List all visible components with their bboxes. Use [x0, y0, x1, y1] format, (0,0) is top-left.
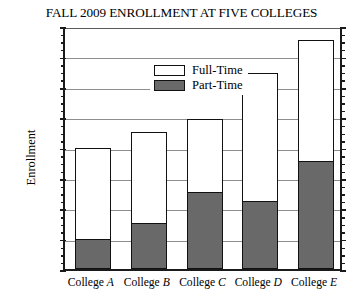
- right-minor-tick-mark: [340, 80, 345, 81]
- right-minor-tick-mark: [340, 50, 345, 51]
- legend-label-full-time: Full-Time: [192, 64, 243, 77]
- right-tick-mark: [340, 240, 346, 242]
- right-tick-mark: [340, 88, 346, 90]
- bar-segment-part-time[interactable]: [75, 239, 111, 269]
- right-minor-tick-mark: [340, 217, 345, 218]
- right-minor-tick-mark: [340, 65, 345, 66]
- y-tick-mark: [60, 270, 66, 272]
- right-minor-tick-mark: [340, 172, 345, 173]
- legend-label-part-time: Part-Time: [192, 79, 243, 92]
- legend-item-part-time: Part-Time: [154, 78, 243, 93]
- right-minor-tick-mark: [340, 225, 345, 226]
- bar-group[interactable]: [187, 119, 223, 269]
- bar-segment-part-time[interactable]: [242, 201, 278, 269]
- right-minor-tick-mark: [340, 141, 345, 142]
- right-minor-tick-mark: [340, 232, 345, 233]
- right-tick-mark: [340, 118, 346, 120]
- plot-area: Full-Time Part-Time: [63, 28, 342, 271]
- legend-swatch-full-time-icon: [154, 65, 185, 76]
- x-tick-label: College E: [269, 276, 359, 289]
- right-minor-tick-mark: [340, 42, 345, 43]
- right-minor-tick-mark: [340, 255, 345, 256]
- right-minor-tick-mark: [340, 126, 345, 127]
- bar-segment-part-time[interactable]: [131, 223, 167, 269]
- bar-group[interactable]: [242, 73, 278, 269]
- right-tick-mark: [340, 27, 346, 29]
- right-minor-tick-mark: [340, 103, 345, 104]
- enrollment-bar-chart: FALL 2009 ENROLLMENT AT FIVE COLLEGES En…: [0, 0, 363, 303]
- right-minor-tick-mark: [340, 134, 345, 135]
- right-tick-mark: [340, 209, 346, 211]
- right-minor-tick-mark: [340, 202, 345, 203]
- right-minor-tick-mark: [340, 35, 345, 36]
- bar-segment-part-time[interactable]: [298, 161, 334, 269]
- right-minor-tick-mark: [340, 248, 345, 249]
- right-minor-tick-mark: [340, 96, 345, 97]
- y-axis-label: Enrollment: [24, 98, 39, 218]
- right-tick-mark: [340, 149, 346, 151]
- bar-group[interactable]: [298, 40, 334, 269]
- right-minor-tick-mark: [340, 73, 345, 74]
- bar-group[interactable]: [131, 132, 167, 269]
- right-minor-tick-mark: [340, 156, 345, 157]
- chart-legend: Full-Time Part-Time: [150, 61, 248, 95]
- right-tick-mark: [340, 270, 346, 272]
- right-minor-tick-mark: [340, 187, 345, 188]
- legend-swatch-part-time-icon: [154, 80, 185, 91]
- right-tick-mark: [340, 179, 346, 181]
- bar-group[interactable]: [75, 148, 111, 270]
- chart-title: FALL 2009 ENROLLMENT AT FIVE COLLEGES: [0, 5, 363, 21]
- right-minor-tick-mark: [340, 263, 345, 264]
- right-minor-tick-mark: [340, 111, 345, 112]
- right-minor-tick-mark: [340, 164, 345, 165]
- legend-item-full-time: Full-Time: [154, 63, 243, 78]
- right-tick-mark: [340, 58, 346, 60]
- right-minor-tick-mark: [340, 194, 345, 195]
- bar-segment-part-time[interactable]: [187, 192, 223, 269]
